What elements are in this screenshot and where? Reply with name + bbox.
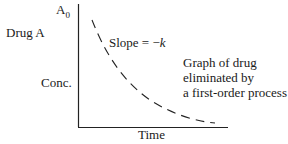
annotation-line-3: a first-order process [183,86,287,100]
y-axis-label: Conc. [41,76,72,90]
annotation-line-1: Graph of drug [183,56,257,70]
slope-label: Slope = −k [109,36,166,50]
annotation-line-2: eliminated by [183,71,254,85]
drug-label: Drug A [6,26,45,40]
a0-label: A0 [56,3,70,22]
x-axis-label: Time [138,128,165,142]
